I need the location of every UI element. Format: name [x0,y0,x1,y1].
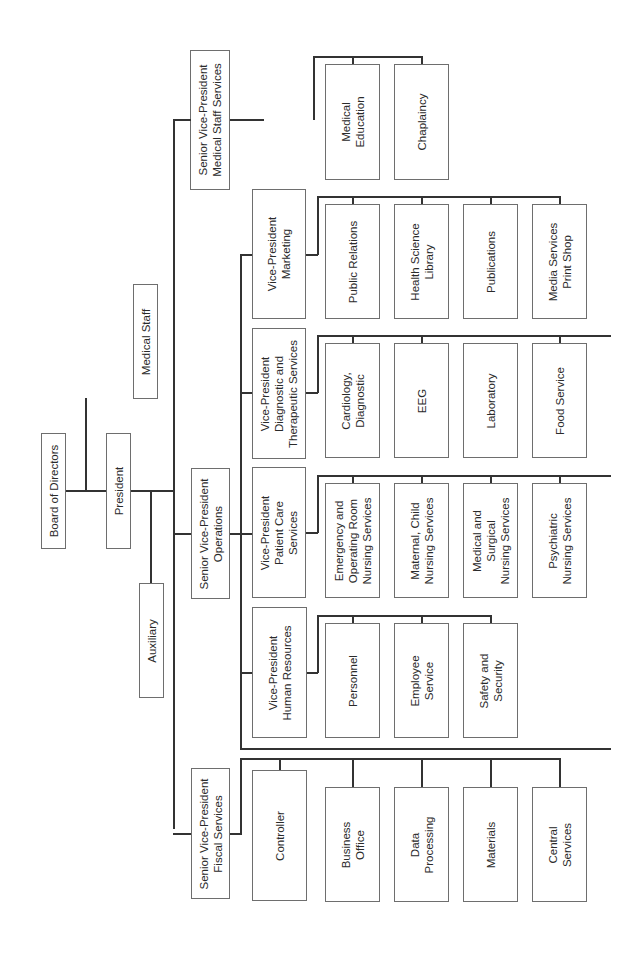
materials-label: Materials [484,821,498,868]
diagnostic-tick [421,335,423,343]
mss-tick [421,56,423,64]
psychiatric-nursing-label: Psychiatric Nursing Services [546,497,574,584]
vp-marketing-label: Vice-President Marketing [265,217,293,292]
media-services-label: Media Services Print Shop [546,222,574,301]
marketing-tick [352,196,354,204]
vp-diagnostic-box: Vice-President Diagnostic and Therapeuti… [252,328,306,459]
mss-branch [230,119,264,121]
auxiliary-box: Auxiliary [139,583,164,698]
hr-rail [317,615,491,617]
safety-security-label: Safety and Security [477,653,505,708]
marketing-bus [317,196,319,255]
svp-fiscal-connector [173,833,191,835]
data-processing-label: Data Processing [408,816,436,873]
president-trunk-connector [131,490,174,492]
patient-care-bus [317,475,319,533]
chaplaincy-label: Chaplaincy [415,94,429,151]
fiscal-tick [421,758,423,787]
employee-service-label: Employee Service [408,655,436,706]
diagnostic-bus [317,335,319,393]
hr-tick [421,615,423,623]
hr-tick [490,615,492,623]
cardiology-box: Cardiology, Diagnostic [325,343,380,458]
controller-label: Controller [273,811,287,861]
eeg-label: EEG [415,388,429,412]
board-of-directors-label: Board of Directors [47,445,61,538]
diagnostic-rail [317,335,611,337]
svp-fiscal-services-box: Senior Vice-President Fiscal Services [191,768,230,899]
vp-diagnostic-connector [240,392,252,394]
vp-human-resources-box: Vice-President Human Resources [252,607,307,738]
vp-human-resources-label: Vice-President Human Resources [266,625,294,720]
auxiliary-label: Auxiliary [145,619,159,662]
board-of-directors-box: Board of Directors [41,433,66,549]
vp-diagnostic-label: Vice-President Diagnostic and Therapeuti… [258,339,300,447]
medical-staff-label: Medical Staff [139,308,153,374]
hr-bus [317,615,319,673]
medical-surgical-nursing-label: Medical and Surgical Nursing Services [470,497,512,584]
medical-surgical-nursing-box: Medical and Surgical Nursing Services [463,483,518,598]
svp-spine [173,119,175,829]
laboratory-box: Laboratory [463,343,518,458]
materials-box: Materials [463,787,518,902]
patient-care-tick [559,475,561,483]
mss-rail [313,56,422,58]
psychiatric-nursing-box: Psychiatric Nursing Services [532,483,587,598]
vp-marketing-box: Vice-President Marketing [252,189,306,319]
vp-marketing-connector [240,254,252,256]
medical-education-box: Medical Education [325,64,380,180]
food-service-label: Food Service [553,367,567,435]
publications-label: Publications [484,230,498,292]
patient-care-tick [421,475,423,483]
vp-patient-care-connector [240,533,252,535]
fiscal-tick [279,758,281,770]
fiscal-tick [490,758,492,787]
svp-operations-box: Senior Vice-President Operations [191,468,230,599]
maternal-child-nursing-box: Maternal, Child Nursing Services [394,483,449,598]
personnel-label: Personnel [346,655,360,707]
health-science-library-label: Health Science Library [408,223,436,300]
safety-security-box: Safety and Security [463,623,518,738]
central-services-box: Central Services [532,787,587,902]
employee-service-box: Employee Service [394,623,449,738]
public-relations-label: Public Relations [346,220,360,302]
eeg-box: EEG [394,343,449,458]
data-processing-box: Data Processing [394,787,449,902]
health-science-library-box: Health Science Library [394,204,449,319]
vp-patient-care-label: Vice-President Patient Care Services [258,495,300,570]
marketing-tick [490,196,492,204]
medical-staff-connector [85,398,87,491]
maternal-child-nursing-label: Maternal, Child Nursing Services [408,497,436,584]
business-office-label: Business Office [339,821,367,868]
marketing-tick [421,196,423,204]
controller-box: Controller [252,770,307,901]
ops-bottom-rule [240,748,611,750]
medical-staff-box: Medical Staff [133,284,158,399]
chaplaincy-box: Chaplaincy [394,64,449,180]
emergency-or-nursing-box: Emergency and Operating Room Nursing Ser… [325,483,380,598]
svp-medical-staff-services-box: Senior Vice-President Medical Staff Serv… [190,50,230,190]
food-service-box: Food Service [532,343,587,458]
fiscal-tick [559,758,561,787]
mss-bus [313,56,315,120]
laboratory-label: Laboratory [484,373,498,428]
personnel-box: Personnel [325,623,380,738]
svp-medical-staff-services-label: Senior Vice-President Medical Staff Serv… [196,63,224,177]
publications-box: Publications [463,204,518,319]
medical-education-label: Medical Education [339,96,367,147]
ops-spine [240,254,242,749]
svp-ops-connector [173,533,191,535]
patient-care-tick [352,475,354,483]
fiscal-rail [240,758,560,760]
vp-hr-connector [240,672,252,674]
president-label: President [112,467,126,516]
diagnostic-tick [559,335,561,343]
business-office-box: Business Office [325,787,380,902]
auxiliary-connector [150,490,152,583]
cardiology-label: Cardiology, Diagnostic [339,372,367,429]
patient-care-rail [317,475,611,477]
svp-fiscal-services-label: Senior Vice-President Fiscal Services [197,778,225,889]
svp-mss-connector [173,119,191,121]
mss-tick [352,56,354,64]
fiscal-bus [240,758,242,834]
